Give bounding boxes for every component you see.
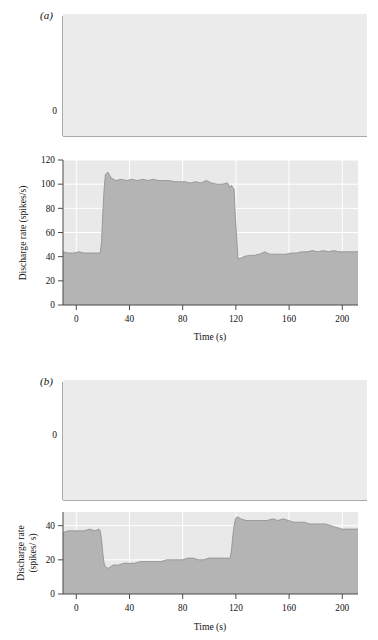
x-tick-label-b-160: 160 [282, 603, 296, 613]
stimulus-background-a [63, 14, 367, 136]
x-tick-label-a-160: 160 [282, 314, 296, 324]
x-tick-label-a-200: 200 [335, 314, 349, 324]
panel-a: (a) 0 Start tilt Constant tilt End tilt [0, 0, 378, 348]
y-tick-label-a-120: 120 [41, 155, 55, 165]
x-tick-label-a-0: 0 [74, 314, 79, 324]
y-tick-label-b-0: 0 [50, 589, 55, 599]
y-tick-label-a-100: 100 [41, 179, 55, 189]
panel-b-label: (b) [40, 375, 53, 387]
panel-a-label: (a) [40, 9, 53, 21]
y-ticks-b [58, 526, 63, 594]
stimulus-background-b [63, 380, 367, 500]
x-ticks-a [76, 305, 342, 310]
panel-b-stimulus-trace: 0 Start tilt Constant tilt End tilt [57, 380, 367, 504]
x-tick-label-b-200: 200 [335, 603, 349, 613]
y-tick-label-a-60: 60 [46, 228, 56, 238]
x-tick-label-b-0: 0 [74, 603, 79, 613]
x-tick-label-a-40: 40 [125, 314, 135, 324]
x-tick-label-b-80: 80 [178, 603, 188, 613]
y-tick-label-b-40: 40 [46, 521, 56, 531]
panel-a-stimulus-trace: 0 Start tilt Constant tilt End tilt [57, 14, 367, 140]
y-ticks-a [58, 160, 63, 305]
y-tick-label-a-40: 40 [46, 252, 56, 262]
y-tick-label-a-20: 20 [46, 276, 56, 286]
stimulus-zero-label-b: 0 [52, 430, 57, 440]
x-tick-label-a-80: 80 [178, 314, 188, 324]
panel-b: (b) 0 Start tilt Constant tilt End tilt [0, 368, 378, 640]
x-axis-title-b: Time (s) [194, 621, 226, 633]
x-tick-label-b-120: 120 [229, 603, 243, 613]
y-tick-label-b-20: 20 [46, 555, 56, 565]
x-tick-label-b-40: 40 [125, 603, 135, 613]
x-ticks-b [76, 594, 342, 599]
y-axis-title-a: Discharge rate (spikes/s) [17, 186, 29, 281]
y-tick-label-a-80: 80 [46, 204, 56, 214]
y-tick-label-a-0: 0 [50, 300, 55, 310]
x-tick-label-a-120: 120 [229, 314, 243, 324]
panel-b-discharge-chart: 0 20 40 0 40 80 120 160 200 Time (s) Dis… [0, 506, 378, 640]
panel-a-discharge-chart: 0 20 40 60 80 100 120 0 40 80 120 160 20… [0, 150, 378, 348]
x-axis-title-a: Time (s) [194, 331, 226, 343]
y-axis-title-b-line1: Discharge rate [15, 525, 26, 581]
y-axis-title-b-line2: (spikes/ s) [27, 533, 39, 572]
stimulus-zero-label-a: 0 [52, 106, 57, 116]
